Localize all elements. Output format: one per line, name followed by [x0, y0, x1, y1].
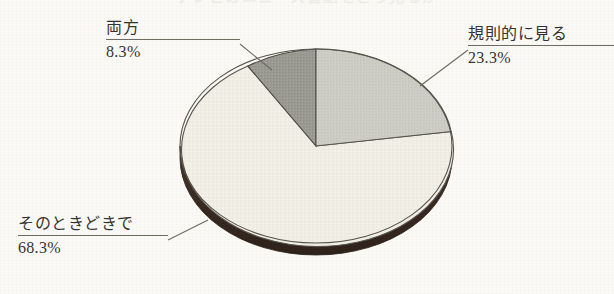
pie-slice-regular — [316, 49, 451, 146]
callout-regular: 規則的に見る 23.3% — [468, 24, 614, 67]
chart-page: テレビのニュース番組をどう見るか — [0, 0, 614, 294]
callout-both-rule — [106, 39, 240, 40]
leader-line-regular — [420, 50, 468, 86]
callout-both-label: 両方 — [106, 18, 240, 38]
callout-depends-label: そのときどきで — [18, 214, 168, 234]
leader-line-depends — [168, 220, 208, 240]
callout-regular-label: 規則的に見る — [468, 24, 614, 44]
callout-regular-value: 23.3% — [468, 48, 614, 67]
callout-depends: そのときどきで 68.3% — [18, 214, 168, 257]
pie-top-face — [180, 49, 454, 246]
callout-regular-rule — [468, 45, 614, 46]
callout-both-value: 8.3% — [106, 42, 240, 61]
callout-depends-rule — [18, 235, 168, 236]
callout-both: 両方 8.3% — [106, 18, 240, 61]
callout-depends-value: 68.3% — [18, 238, 168, 257]
